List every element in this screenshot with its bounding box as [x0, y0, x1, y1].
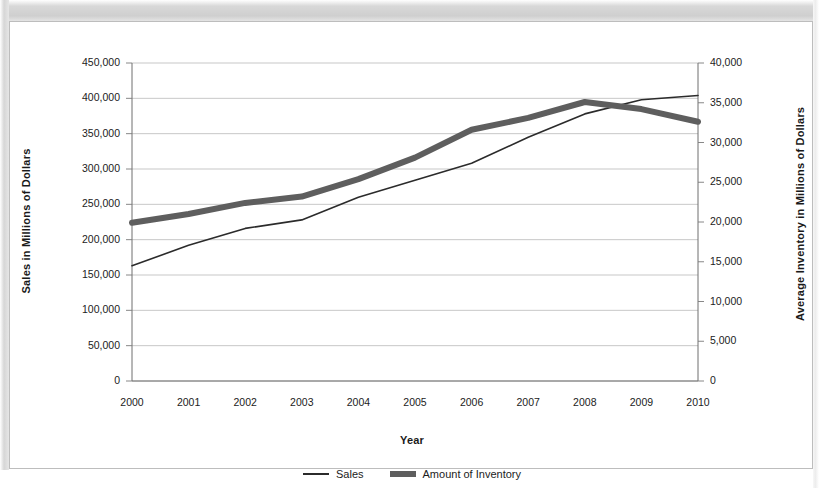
gridlines: [132, 63, 698, 381]
scan-shadow-top: [0, 0, 819, 22]
y-axis-left-tick-label: 150,000: [56, 268, 120, 280]
y-axis-right-tick-label: 0: [710, 374, 774, 386]
y-axis-left-tick-label: 350,000: [56, 127, 120, 139]
x-axis-tick-label: 2008: [555, 396, 615, 408]
x-axis-tick-label: 2010: [668, 396, 728, 408]
right-axis-ticks: [698, 63, 704, 381]
y-axis-right-tick-label: 25,000: [710, 175, 774, 187]
x-axis-tick-label: 2001: [159, 396, 219, 408]
x-axis-tick-label: 2003: [272, 396, 332, 408]
x-axis-tick-label: 2000: [102, 396, 162, 408]
data-series: [132, 96, 698, 266]
x-axis-tick-label: 2006: [442, 396, 502, 408]
y-axis-right-title: Average Inventory in Millions of Dollars: [794, 121, 806, 321]
x-axis-tick-label: 2004: [328, 396, 388, 408]
legend-swatch-inventory-icon: [390, 471, 416, 477]
y-axis-left-title: Sales in Millions of Dollars: [20, 121, 32, 321]
y-axis-right-tick-label: 35,000: [710, 96, 774, 108]
legend-swatch-sales-icon: [303, 473, 329, 475]
y-axis-right-tick-label: 30,000: [710, 136, 774, 148]
scanned-page: 050,000100,000150,000200,000250,000300,0…: [0, 0, 819, 488]
x-axis-tick-label: 2002: [215, 396, 275, 408]
scan-shadow-left: [0, 0, 9, 470]
y-axis-left-tick-label: 450,000: [56, 56, 120, 68]
x-axis-title: Year: [10, 434, 814, 446]
y-axis-left-tick-label: 400,000: [56, 91, 120, 103]
y-axis-right-tick-label: 5,000: [710, 334, 774, 346]
axis-lines: [132, 63, 698, 381]
x-axis-tick-label: 2007: [498, 396, 558, 408]
y-axis-right-tick-label: 40,000: [710, 56, 774, 68]
x-axis-tick-label: 2009: [611, 396, 671, 408]
y-axis-right-tick-label: 15,000: [710, 255, 774, 267]
legend-label-sales: Sales: [336, 468, 364, 480]
y-axis-left-tick-label: 200,000: [56, 233, 120, 245]
legend-item-sales: Sales: [303, 468, 364, 480]
chart-container: 050,000100,000150,000200,000250,000300,0…: [9, 21, 813, 469]
y-axis-left-tick-label: 250,000: [56, 197, 120, 209]
y-axis-left-tick-label: 300,000: [56, 162, 120, 174]
y-axis-right-tick-label: 20,000: [710, 215, 774, 227]
series-line-sales: [132, 96, 698, 266]
chart-legend: Sales Amount of Inventory: [10, 468, 814, 480]
y-axis-left-tick-label: 100,000: [56, 303, 120, 315]
y-axis-left-tick-label: 0: [56, 374, 120, 386]
legend-item-inventory: Amount of Inventory: [390, 468, 521, 480]
x-axis-tick-label: 2005: [385, 396, 445, 408]
legend-label-inventory: Amount of Inventory: [423, 468, 521, 480]
y-axis-left-tick-label: 50,000: [56, 339, 120, 351]
y-axis-right-tick-label: 10,000: [710, 295, 774, 307]
